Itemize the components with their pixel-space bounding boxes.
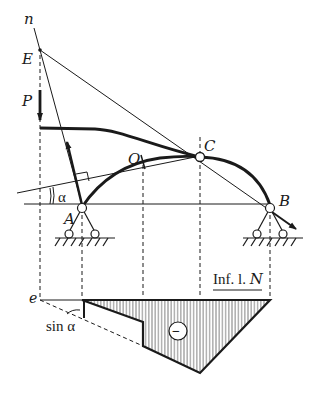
arch-curve-right (200, 157, 270, 205)
label-n: n (24, 10, 34, 28)
line-E-C-B (40, 50, 272, 212)
influence-line-N: − (40, 300, 270, 373)
negative-sign: − (172, 324, 180, 339)
bent-member (40, 128, 200, 157)
influence-title: Inf. l. N (213, 270, 264, 288)
angle-alpha-arc-2 (53, 187, 54, 204)
arch-diagram: n E P O C A B α − e sin α Inf. l. N (0, 0, 316, 393)
point-E (38, 48, 42, 52)
label-B: B (278, 192, 290, 210)
label-e: e (29, 290, 37, 306)
influence-title-var: N (249, 270, 264, 288)
label-alpha: α (58, 189, 66, 205)
label-C: C (204, 137, 216, 155)
reaction-B-arrow (272, 212, 296, 229)
influence-title-prefix: Inf. l. (213, 271, 250, 287)
label-O: O (128, 150, 140, 168)
label-E: E (21, 50, 33, 68)
arch-curve (82, 156, 200, 207)
label-sin-alpha: sin α (46, 318, 75, 334)
arch-left (82, 132, 200, 208)
tangent-line-O (17, 156, 200, 193)
angle-alpha-arc (50, 188, 51, 204)
label-A: A (62, 210, 75, 228)
label-P: P (21, 92, 33, 110)
support-B (243, 204, 303, 247)
